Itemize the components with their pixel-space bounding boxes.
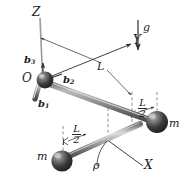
label-axis-z: Z <box>32 6 40 18</box>
basis-b3-letter: b <box>24 54 31 65</box>
label-basis-b2: b2 <box>63 75 74 86</box>
half-L-left-numerator: L <box>72 124 81 134</box>
mass-sphere-right <box>146 111 168 133</box>
label-gravity: g <box>143 22 150 33</box>
label-length-L: L <box>97 61 104 72</box>
basis-b1-letter: b <box>38 98 45 109</box>
mass-sphere-left <box>51 150 72 171</box>
label-mass-right: m <box>169 118 179 129</box>
label-axis-x: X <box>144 159 153 171</box>
origin-sphere <box>37 72 54 89</box>
label-axis-y: Y <box>133 34 141 46</box>
basis-b3-subscript: 3 <box>31 58 35 65</box>
label-mass-left: m <box>37 151 47 162</box>
half-L-right-denominator: 2 <box>138 109 147 119</box>
basis-b1-subscript: 1 <box>45 102 49 109</box>
basis-b2-subscript: 2 <box>70 78 74 85</box>
label-angle-rho: ρ <box>93 160 99 171</box>
label-basis-b3: b3 <box>24 55 35 66</box>
figure-vector-graphics <box>0 0 181 178</box>
label-half-L-left: L 2 <box>72 124 81 145</box>
half-L-right-numerator: L <box>138 98 147 108</box>
axis-x <box>106 139 143 166</box>
axis-y <box>47 44 131 78</box>
label-origin: O <box>22 72 32 84</box>
label-half-L-right: L 2 <box>138 98 147 119</box>
figure-canvas: Z Y X O b3 b2 b1 g L L 2 L 2 m m ρ <box>0 0 181 178</box>
label-basis-b1: b1 <box>38 99 49 110</box>
half-L-left-denominator: 2 <box>72 135 81 145</box>
basis-b2-letter: b <box>63 74 70 85</box>
